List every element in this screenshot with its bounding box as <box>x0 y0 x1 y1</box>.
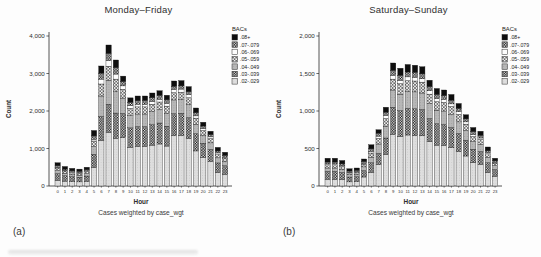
stacked-bar-plot: 05001,0001,5002,000012345678910111213141… <box>271 0 541 225</box>
bar-segment <box>222 155 227 157</box>
y-tick-label: 1,000 <box>299 107 315 114</box>
bar-segment <box>179 113 184 135</box>
bar-segment <box>186 118 191 139</box>
bar-segment <box>201 126 206 129</box>
x-tick-label: 4 <box>356 189 359 194</box>
bar-segment <box>340 170 345 173</box>
y-tick-label: 500 <box>304 145 315 152</box>
bar-segment <box>354 170 359 172</box>
bar-segment <box>441 96 446 100</box>
x-tick-label: 13 <box>150 189 155 194</box>
x-tick-label: 20 <box>201 189 206 194</box>
bar-segment <box>456 104 461 109</box>
bar-segment <box>420 110 425 136</box>
bar-segment <box>427 119 432 142</box>
legend-label: .05-.059 <box>240 56 259 62</box>
bar-segment <box>201 131 206 136</box>
legend-title: BACs <box>232 26 247 32</box>
bar-segment <box>441 90 446 96</box>
bar-segment <box>471 142 476 150</box>
bar-segment <box>420 93 425 110</box>
bar-segment <box>492 176 497 186</box>
bar-segment <box>193 108 198 113</box>
bar-segment <box>332 165 337 168</box>
y-tick-label: 4,000 <box>29 32 45 39</box>
x-tick-label: 0 <box>56 189 59 194</box>
bar-segment <box>471 135 476 137</box>
bar-segment <box>150 125 155 145</box>
bar-segment <box>135 146 140 186</box>
x-tick-label: 4 <box>86 189 89 194</box>
bar-segment <box>164 146 169 186</box>
bar-segment <box>62 171 67 173</box>
legend-swatch <box>502 64 508 70</box>
bar-segment <box>208 135 213 137</box>
bar-segment <box>478 138 483 140</box>
bar-segment <box>325 158 330 162</box>
bar-segment <box>186 105 191 118</box>
bar-segment <box>179 92 184 99</box>
bar-segment <box>361 162 366 164</box>
bar-segment <box>420 136 425 186</box>
bar-segment <box>135 127 140 147</box>
bar-segment <box>179 100 184 114</box>
bar-segment <box>106 45 111 53</box>
bar-segment <box>340 173 345 180</box>
bar-segment <box>99 79 104 84</box>
two-panel-figure: Monday–Friday Count 01,0002,0003,0004,00… <box>0 0 541 257</box>
bar-segment <box>449 95 454 101</box>
bar-segment <box>325 165 330 168</box>
bar-segment <box>128 102 133 106</box>
bar-segment <box>128 128 133 147</box>
x-tick-label: 6 <box>370 189 373 194</box>
bar-segment <box>215 154 220 158</box>
bar-segment <box>412 92 417 109</box>
x-tick-label: 3 <box>78 189 81 194</box>
bar-segment <box>347 182 352 186</box>
bar-segment <box>84 176 89 181</box>
bar-segment <box>427 91 432 94</box>
bar-segment <box>463 156 468 186</box>
bar-segment <box>99 140 104 186</box>
bar-segment <box>142 114 147 127</box>
bar-segment <box>332 158 337 162</box>
legend-label: .04-.049 <box>510 64 529 70</box>
bar-segment <box>186 95 191 98</box>
x-axis-title: Hour <box>319 198 503 205</box>
bar-segment <box>215 147 220 151</box>
bar-segment <box>222 158 227 161</box>
bar-segment <box>325 168 330 171</box>
bar-segment <box>391 107 396 134</box>
bar-segment <box>70 168 75 170</box>
bar-segment <box>449 107 454 115</box>
bar-segment <box>471 128 476 132</box>
bar-segment <box>405 92 410 109</box>
x-tick-label: 22 <box>485 189 490 194</box>
x-tick-label: 19 <box>464 189 469 194</box>
x-tick-label: 19 <box>194 189 199 194</box>
bar-segment <box>383 155 388 187</box>
bar-segment <box>412 77 417 81</box>
bar-segment <box>354 172 359 174</box>
bar-segment <box>121 98 126 113</box>
bar-segment <box>113 74 118 79</box>
bar-segment <box>106 53 111 60</box>
bar-segment <box>208 143 213 150</box>
legend-label: .08+ <box>510 34 520 40</box>
legend-label: .02-.029 <box>510 78 529 84</box>
bar-segment <box>70 177 75 182</box>
bar-segment <box>478 152 483 165</box>
bar-segment <box>193 151 198 186</box>
bar-segment <box>208 131 213 134</box>
bar-segment <box>449 115 454 128</box>
bar-segment <box>91 147 96 155</box>
bar-segment <box>398 75 403 80</box>
bar-segment <box>391 75 396 79</box>
bar-segment <box>471 137 476 142</box>
bar-segment <box>55 171 60 174</box>
bar-segment <box>91 136 96 139</box>
bar-segment <box>150 101 155 104</box>
bar-segment <box>478 144 483 151</box>
x-tick-label: 21 <box>478 189 483 194</box>
bar-segment <box>463 131 468 141</box>
